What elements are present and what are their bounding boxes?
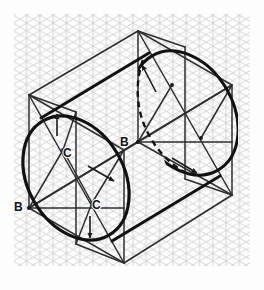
label-c-lower: C [92,198,101,212]
isometric-drawing-figure: B B C C [0,0,264,290]
figure-canvas: B B C C [0,0,264,290]
center-dot-b-left [27,206,31,210]
label-c-upper: C [63,146,72,160]
center-dot-back-upper [170,83,174,87]
label-b-center: B [120,135,129,149]
label-b-left: B [14,200,23,214]
center-dot-back-lower [199,136,203,140]
center-dot-b-center [136,140,140,144]
